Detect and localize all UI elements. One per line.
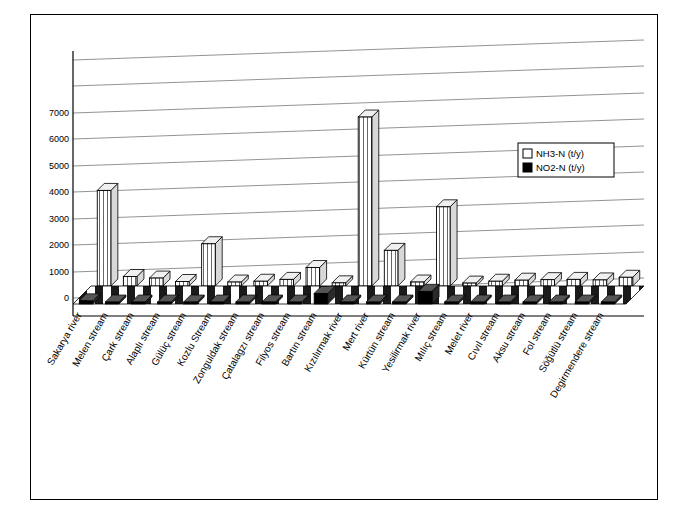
bar-nh3 [254, 274, 275, 286]
bar-nh3 [489, 274, 510, 286]
y-tick-7000: 7000 [49, 108, 69, 118]
y-tick-5000: 5000 [49, 161, 69, 171]
y-tick-6000: 6000 [49, 134, 69, 144]
legend-label-nh3: NH3-N (t/y) [536, 148, 584, 159]
bar-nh3 [202, 237, 223, 286]
bar-chart-plot: 0 1000 2000 3000 4000 5000 6000 7000 Sak… [31, 15, 659, 501]
bar-nh3 [593, 273, 614, 286]
bar-nh3 [358, 110, 379, 286]
legend-label-no2: NO2-N (t/y) [536, 162, 585, 173]
bar-nh3 [280, 272, 301, 286]
bar-nh3 [97, 183, 118, 286]
y-tick-0: 0 [64, 293, 69, 303]
bar-nh3 [176, 275, 197, 286]
chart-legend: NH3-N (t/y) NO2-N (t/y) [518, 143, 614, 177]
bars-group [97, 110, 639, 286]
y-tick-labels: 0 1000 2000 3000 4000 5000 6000 7000 [49, 108, 69, 303]
y-tick-3000: 3000 [49, 214, 69, 224]
bar-nh3 [306, 261, 327, 286]
bar-nh3 [123, 269, 144, 286]
legend-swatch-nh3 [523, 149, 532, 158]
y-tick-4000: 4000 [49, 187, 69, 197]
bar-nh3 [332, 276, 353, 286]
y-tick-2000: 2000 [49, 240, 69, 250]
category-labels: Sakarya riverMelen streamÇark streamAlap… [45, 310, 606, 400]
bar-nh3 [541, 273, 562, 286]
legend-swatch-no2 [523, 163, 532, 172]
bar-nh3 [437, 200, 458, 286]
y-tick-1000: 1000 [49, 267, 69, 277]
bar-nh3 [567, 272, 588, 286]
chart-svg: 0 1000 2000 3000 4000 5000 6000 7000 Sak… [31, 15, 659, 501]
bar-nh3 [149, 271, 170, 286]
bar-nh3 [515, 273, 536, 286]
chart-frame: 0 1000 2000 3000 4000 5000 6000 7000 Sak… [30, 14, 658, 500]
bar-nh3 [384, 243, 405, 286]
bar-nh3 [463, 276, 484, 286]
bar-nh3 [228, 275, 249, 286]
bar-nh3 [619, 270, 640, 286]
